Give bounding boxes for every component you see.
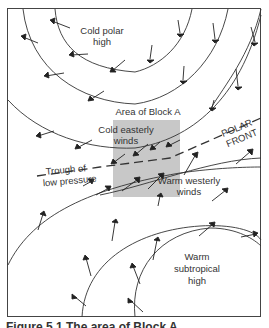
label-area-of-block: Area of Block A xyxy=(116,106,182,117)
label-cold-polar-high-line2: high xyxy=(93,36,111,47)
label-cold-easterly-line1: Cold easterly xyxy=(98,124,154,135)
label-cold-easterly-line2: winds xyxy=(113,135,139,146)
label-warm-subtropical-line3: high xyxy=(188,275,206,286)
label-warm-westerly-line1: Warm westerly xyxy=(158,175,221,186)
label-warm-westerly-line2: winds xyxy=(176,186,202,197)
label-warm-subtropical-line2: subtropical xyxy=(174,263,220,274)
figure-caption: Figure 5.1 The area of Block A xyxy=(6,320,178,328)
label-cold-polar-high-line1: Cold polar xyxy=(80,25,123,36)
label-warm-subtropical-line1: Warm xyxy=(185,251,210,262)
weather-diagram: Cold polar high Area of Block A Cold eas… xyxy=(0,0,269,328)
